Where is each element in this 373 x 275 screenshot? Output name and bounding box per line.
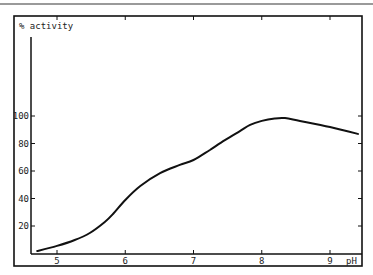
- y-tick-label: 80: [18, 139, 29, 149]
- activity-curve: [37, 118, 358, 251]
- x-tick-label: 5: [54, 256, 59, 266]
- y-tick-label: 60: [18, 166, 29, 176]
- x-tick-label: 9: [327, 256, 332, 266]
- y-tick-label: 100: [13, 111, 29, 121]
- x-axis-title: pH: [346, 256, 357, 266]
- y-tick-label: 40: [18, 194, 29, 204]
- x-tick-label: 6: [123, 256, 128, 266]
- x-tick-label: 7: [191, 256, 196, 266]
- x-tick-label: 8: [259, 256, 264, 266]
- y-axis-title: % activity: [19, 21, 74, 31]
- y-tick-label: 20: [18, 221, 29, 231]
- ph-activity-chart: % activity 20406080100 56789 pH: [0, 0, 373, 275]
- outer-frame: [14, 16, 362, 266]
- x-axis-ticks: 56789: [54, 250, 332, 266]
- top-rule: [0, 3, 373, 5]
